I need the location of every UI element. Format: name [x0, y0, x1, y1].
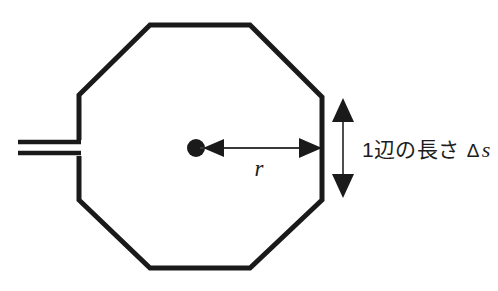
octagon-diagram-svg: r 1辺の長さΔs — [0, 0, 498, 291]
figure-canvas: r 1辺の長さΔs — [0, 0, 498, 291]
delta-symbol: Δ — [467, 140, 480, 161]
side-length-symbol: s — [482, 137, 491, 162]
side-length-label-japanese: 1辺の長さ — [362, 138, 460, 161]
side-arrow-up-icon — [332, 98, 354, 122]
radius-label: r — [255, 156, 265, 181]
radius-arrow-right-icon — [299, 138, 322, 158]
side-arrow-down-icon — [332, 174, 354, 198]
side-length-label: 1辺の長さΔs — [362, 137, 491, 162]
radius-arrow-left-icon — [203, 139, 224, 157]
